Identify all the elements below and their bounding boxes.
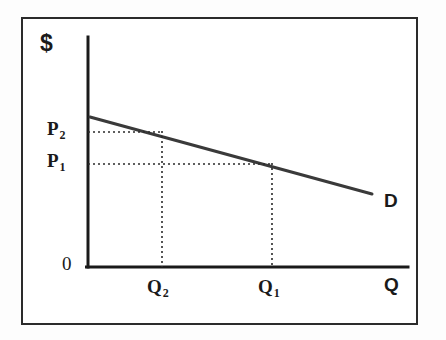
quantity-label-q1: Q1 (258, 277, 279, 296)
quantity-label-q2-subscript: 2 (163, 286, 169, 300)
price-label-p1-base: P (47, 150, 59, 171)
price-label-p2: P2 (47, 119, 65, 138)
demand-curve-line (90, 117, 372, 194)
price-label-p1: P1 (47, 151, 65, 170)
x-axis-title-quantity: Q (384, 275, 399, 294)
quantity-label-q1-subscript: 1 (274, 286, 280, 300)
y-axis-title-dollar: $ (40, 32, 53, 55)
price-label-p2-base: P (47, 118, 59, 139)
plot-svg (0, 0, 446, 340)
demand-curve-label: D (384, 191, 398, 210)
price-label-p2-subscript: 2 (60, 128, 66, 142)
quantity-label-q2-base: Q (147, 276, 162, 297)
demand-curve-figure: $ D Q P2 P1 0 Q2 Q1 (0, 0, 446, 340)
plot-area: $ D Q P2 P1 0 Q2 Q1 (0, 0, 446, 340)
quantity-label-q1-base: Q (258, 276, 273, 297)
origin-label: 0 (62, 254, 72, 273)
price-label-p1-subscript: 1 (60, 160, 66, 174)
quantity-label-q2: Q2 (147, 277, 168, 296)
